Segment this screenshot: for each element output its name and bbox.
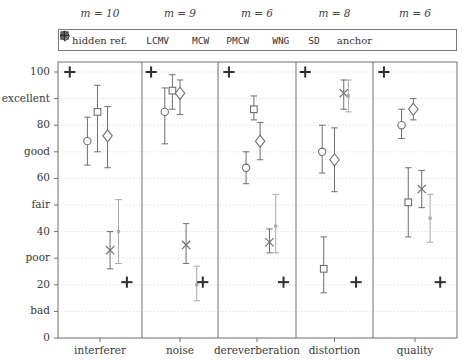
panel-interferer: [64, 66, 132, 287]
datapoint-quality-pmcw: [409, 99, 418, 120]
y-tick-60: 60: [0, 171, 50, 183]
datapoint-noise-wng: [182, 224, 190, 264]
datapoint-dereverberation-pmcw: [255, 123, 264, 160]
datapoint-noise-mcw: [169, 75, 176, 110]
datapoint-noise-sd: [194, 266, 200, 301]
datapoint-interferer-hiddenref: [64, 66, 75, 77]
datapoint-quality-lcmv: [398, 109, 405, 138]
datapoint-interferer-wng: [106, 232, 114, 269]
datapoint-distortion-wng: [340, 80, 348, 109]
datapoint-dereverberation-mcw: [251, 96, 258, 120]
datapoint-dereverberation-anchor: [278, 277, 289, 288]
y-tick-80: 80: [0, 118, 50, 130]
datapoint-dereverberation-lcmv: [242, 152, 249, 184]
datapoint-quality-hiddenref: [378, 66, 389, 77]
datapoint-interferer-anchor: [121, 277, 132, 288]
datapoint-distortion-mcw: [320, 237, 327, 293]
datapoint-dereverberation-hiddenref: [223, 66, 234, 77]
datapoint-distortion-hiddenref: [300, 66, 311, 77]
datapoint-distortion-anchor: [350, 277, 361, 288]
y-tick-20: 20: [0, 278, 50, 290]
datapoint-noise-anchor: [197, 277, 208, 288]
plot-canvas: [0, 0, 466, 361]
chart-root: m = 10 m = 9 m = 6 m = 8 m = 6 hidden re…: [0, 0, 466, 361]
panel-distortion: [300, 66, 362, 292]
y-tick-good: good: [0, 145, 50, 157]
datapoint-dereverberation-wng: [265, 229, 273, 253]
datapoint-quality-sd: [427, 194, 433, 242]
y-tick-0: 0: [0, 331, 50, 343]
datapoint-distortion-pmcw: [330, 128, 339, 192]
datapoint-dereverberation-sd: [273, 194, 279, 253]
datapoint-interferer-sd: [115, 200, 121, 264]
datapoint-distortion-lcmv: [319, 125, 326, 173]
panel-noise: [146, 66, 209, 300]
datapoint-quality-anchor: [435, 277, 446, 288]
datapoint-interferer-lcmv: [84, 117, 91, 165]
y-tick-fair: fair: [0, 198, 50, 210]
panel-dereverberation: [223, 66, 289, 287]
datapoint-quality-mcw: [405, 168, 412, 237]
y-tick-poor: poor: [0, 251, 50, 263]
y-tick-100: 100: [0, 65, 50, 77]
datapoint-noise-hiddenref: [146, 66, 157, 77]
datapoint-interferer-pmcw: [103, 107, 112, 168]
datapoint-noise-lcmv: [161, 88, 168, 144]
panel-quality: [378, 66, 445, 287]
datapoint-noise-pmcw: [175, 80, 184, 115]
y-tick-excellent: excellent: [0, 92, 50, 104]
y-tick-40: 40: [0, 225, 50, 237]
datapoint-quality-wng: [418, 170, 426, 207]
y-tick-bad: bad: [0, 304, 50, 316]
x-tick-quality: quality: [355, 344, 466, 356]
datapoint-interferer-mcw: [94, 85, 101, 152]
